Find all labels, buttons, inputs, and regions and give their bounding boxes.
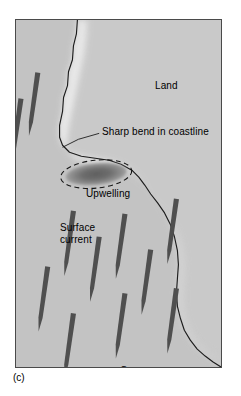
label-surface-current-line2: current [60, 234, 92, 245]
map-panel: Land Sharp bend in coastline Upwelling S… [15, 19, 222, 368]
label-surface-current: Surfacecurrent [60, 222, 95, 245]
label-ocean: Ocean [120, 365, 150, 368]
figure-root: Land Sharp bend in coastline Upwelling S… [0, 0, 241, 396]
figure-panel-letter: (c) [13, 372, 25, 383]
label-land: Land [155, 80, 178, 92]
label-sharp-bend-in-coastline: Sharp bend in coastline [102, 126, 209, 138]
label-surface-current-line1: Surface [60, 222, 95, 233]
label-upwelling: Upwelling [86, 188, 130, 200]
